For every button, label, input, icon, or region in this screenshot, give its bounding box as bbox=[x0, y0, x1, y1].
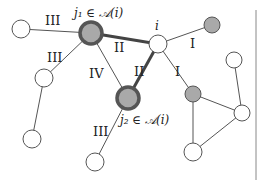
node-j1 bbox=[80, 22, 102, 44]
edge-label-j1-i: II bbox=[114, 40, 124, 55]
node-n_rt bbox=[226, 52, 242, 68]
node-n_tr bbox=[204, 17, 220, 33]
node-n_ll bbox=[23, 130, 41, 148]
graph-diagram: IIIIIIIIIVIIIIIII j₁ ∈ 𝒜(i) i j₂ ∈ 𝒜(i) bbox=[0, 0, 265, 182]
node-n_rr bbox=[234, 105, 250, 121]
edge-label-n_left-j1: III bbox=[45, 13, 60, 28]
node-i bbox=[149, 35, 167, 53]
edge-label-i-n_rg: I bbox=[175, 64, 180, 79]
node-n_lm bbox=[35, 69, 53, 87]
node-n_rg bbox=[185, 86, 201, 102]
node-label-j2: j₂ ∈ 𝒜(i) bbox=[117, 113, 170, 127]
node-n_bm bbox=[86, 153, 104, 171]
edge-label-j2-n_bm: III bbox=[93, 124, 108, 139]
edge-label-j1-n_lm: III bbox=[47, 50, 62, 65]
node-n_left bbox=[12, 20, 30, 38]
node-label-j1: j₁ ∈ 𝒜(i) bbox=[71, 6, 124, 20]
node-j2 bbox=[117, 87, 139, 109]
node-n_rb bbox=[184, 143, 202, 161]
edge-label-j1-j2: IV bbox=[89, 66, 104, 81]
node-label-i: i bbox=[155, 19, 159, 33]
edge-label-i-n_tr: I bbox=[190, 36, 195, 51]
edge-label-i-j2: II bbox=[134, 64, 144, 79]
